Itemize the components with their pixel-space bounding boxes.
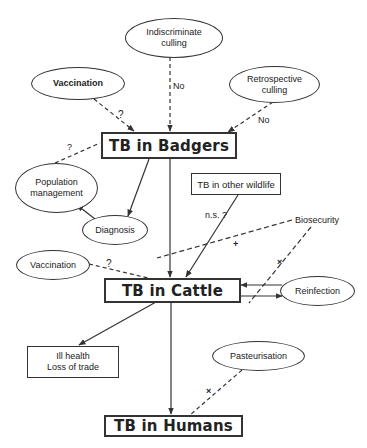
label-vaccination-cattle-q: ? [106, 259, 112, 269]
node-tb-in-badgers: TB in Badgers [101, 132, 237, 159]
label-pasteurisation-x: × [206, 386, 211, 396]
edge-vaccination-to-badgers [94, 99, 134, 131]
node-diagnosis: Diagnosis [82, 215, 148, 245]
label-retrospective-no: No [258, 115, 270, 125]
edge-biosecurity-line-1 [157, 220, 292, 258]
label-wildlife-ns: n.s. ? [205, 210, 227, 220]
node-retrospective-culling: Retrospective culling [229, 66, 320, 103]
node-tb-in-humans: TB in Humans [104, 415, 243, 437]
label-vaccination-badgers-q: ? [118, 110, 124, 120]
node-tb-in-other-wildlife: TB in other wildlife [191, 173, 281, 195]
diagram-canvas: Indiscriminate culling Vaccination Retro… [0, 0, 367, 448]
edge-badgers-to-diagnosis [128, 159, 149, 216]
node-reinfection: Reinfection [280, 276, 355, 306]
edge-vaccination-to-cattle [89, 264, 148, 278]
label-indiscriminate-no: No [173, 81, 185, 91]
edge-cattle-to-illhealth [79, 302, 156, 345]
node-vaccination-cattle: Vaccination [16, 250, 90, 280]
edge-popmgmt-to-badgers [55, 143, 100, 163]
node-tb-in-cattle: TB in Cattle [104, 278, 241, 303]
node-biosecurity: Biosecurity [295, 215, 339, 225]
node-pasteurisation: Pasteurisation [212, 341, 305, 371]
node-vaccination-badgers: Vaccination [31, 67, 125, 100]
node-ill-health-loss-of-trade: Ill health Loss of trade [27, 346, 119, 378]
edge-pasteurisation-to-humans [190, 370, 242, 415]
label-popmgmt-q: ? [67, 142, 72, 152]
node-population-management: Population management [15, 163, 98, 213]
label-biosecurity-plus: + [233, 239, 238, 249]
node-indiscriminate-culling: Indiscriminate culling [125, 18, 223, 58]
edge-wildlife-to-cattle [186, 195, 238, 277]
label-biosecurity-x: × [277, 257, 282, 267]
